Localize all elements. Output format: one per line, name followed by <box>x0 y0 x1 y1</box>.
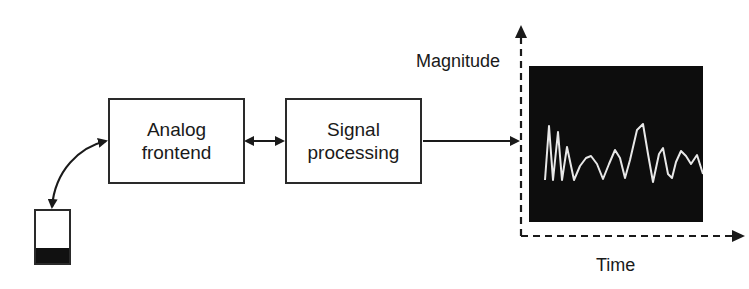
sensor-device-fill <box>36 248 69 263</box>
signal-display <box>529 66 703 222</box>
y-axis-arrow-icon <box>515 25 527 38</box>
device-frontend-arrow <box>52 141 106 207</box>
waveform <box>529 66 703 222</box>
sensor-device <box>34 209 71 265</box>
analog-frontend-label-line1: Analog <box>142 118 212 141</box>
signal-processing-block: Signal processing <box>285 98 422 184</box>
y-axis-label: Magnitude <box>416 51 500 72</box>
analog-frontend-label-line2: frontend <box>142 141 212 164</box>
signal-processing-label-line2: processing <box>308 141 400 164</box>
x-axis-label: Time <box>596 255 635 276</box>
x-axis-arrow-icon <box>732 230 745 242</box>
signal-processing-label-line1: Signal <box>308 118 400 141</box>
analog-frontend-block: Analog frontend <box>108 98 245 184</box>
